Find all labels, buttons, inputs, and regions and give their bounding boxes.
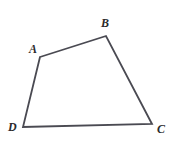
quadrilateral-outline	[23, 36, 152, 127]
vertex-label-c: C	[157, 123, 165, 135]
vertex-label-b: B	[101, 17, 109, 29]
geometry-figure: A B C D	[0, 0, 172, 146]
vertex-label-d: D	[8, 121, 17, 133]
quadrilateral-diagram	[0, 0, 172, 146]
vertex-label-a: A	[29, 43, 37, 55]
